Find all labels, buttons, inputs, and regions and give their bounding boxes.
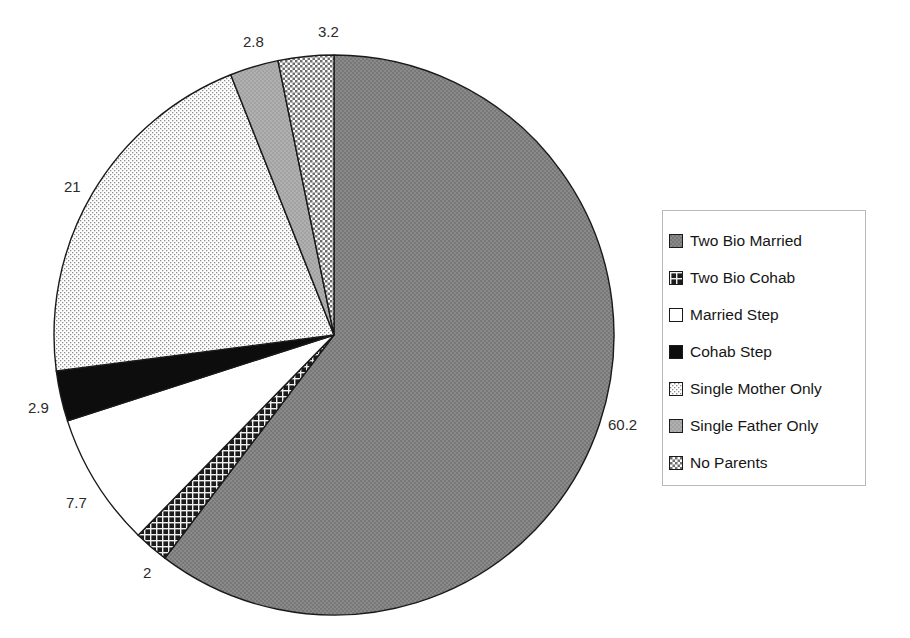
legend-item[interactable]: Married Step bbox=[669, 296, 865, 333]
legend-item-label: Single Father Only bbox=[690, 418, 818, 434]
pie-chart: 60.227.72.9212.83.2 Two Bio MarriedTwo B… bbox=[0, 0, 910, 638]
legend-item[interactable]: No Parents bbox=[669, 444, 865, 481]
pie-slice-value-label: 7.7 bbox=[66, 494, 87, 511]
legend-item[interactable]: Single Mother Only bbox=[669, 370, 865, 407]
legend-item-label: Cohab Step bbox=[690, 344, 772, 360]
legend: Two Bio MarriedTwo Bio CohabMarried Step… bbox=[662, 210, 866, 486]
legend-item-label: Single Mother Only bbox=[690, 381, 822, 397]
legend-swatch-icon bbox=[669, 271, 683, 285]
pie-slice-value-label: 60.2 bbox=[608, 416, 637, 433]
pie-slice-value-label: 3.2 bbox=[318, 23, 339, 40]
legend-item[interactable]: Cohab Step bbox=[669, 333, 865, 370]
legend-item[interactable]: Single Father Only bbox=[669, 407, 865, 444]
legend-item-label: No Parents bbox=[690, 455, 768, 471]
legend-item-label: Married Step bbox=[690, 307, 779, 323]
pie-slice-value-label: 21 bbox=[64, 178, 81, 195]
pie-slice-value-label: 2 bbox=[143, 564, 151, 581]
legend-swatch-icon bbox=[669, 419, 683, 433]
legend-swatch-icon bbox=[669, 382, 683, 396]
legend-item-label: Two Bio Cohab bbox=[690, 270, 795, 286]
pie-slice-value-label: 2.9 bbox=[28, 399, 49, 416]
legend-item-label: Two Bio Married bbox=[690, 233, 802, 249]
legend-swatch-icon bbox=[669, 456, 683, 470]
legend-list: Two Bio MarriedTwo Bio CohabMarried Step… bbox=[663, 211, 865, 485]
legend-item[interactable]: Two Bio Cohab bbox=[669, 259, 865, 296]
pie-slice-group bbox=[54, 55, 614, 615]
legend-swatch-icon bbox=[669, 345, 683, 359]
legend-swatch-icon bbox=[669, 234, 683, 248]
pie-slice-value-label: 2.8 bbox=[243, 33, 264, 50]
legend-item[interactable]: Two Bio Married bbox=[669, 222, 865, 259]
legend-swatch-icon bbox=[669, 308, 683, 322]
